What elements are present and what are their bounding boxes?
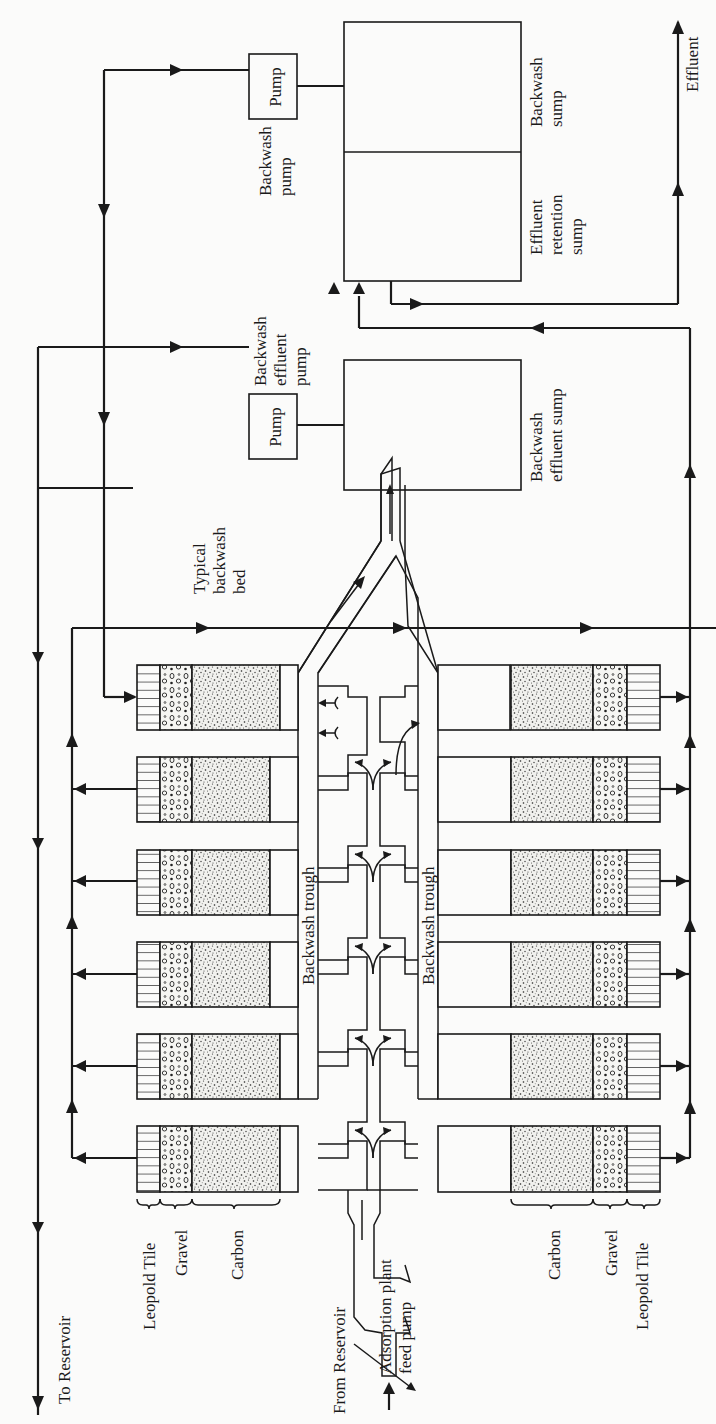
svg-text:pump: pump <box>276 157 295 196</box>
backwash-sump-label: Backwash sump <box>527 57 566 127</box>
svg-text:retention: retention <box>547 194 566 255</box>
svg-text:Gravel: Gravel <box>602 1229 621 1276</box>
feed-pump-label: Adsorption plant feed pump <box>376 1259 415 1374</box>
svg-text:Adsorption plant: Adsorption plant <box>376 1259 395 1374</box>
backwash-trough-left-label: Backwash trough <box>299 866 318 985</box>
pump-label: Pump <box>266 67 285 107</box>
svg-text:effluent sump: effluent sump <box>547 388 566 482</box>
svg-text:pump: pump <box>291 347 310 386</box>
svg-text:Effluent: Effluent <box>527 199 546 255</box>
svg-text:Carbon: Carbon <box>228 1229 247 1280</box>
right-outlet-collector <box>684 328 696 1158</box>
svg-text:Gravel: Gravel <box>172 1229 191 1276</box>
svg-text:Leopold Tile: Leopold Tile <box>633 1243 652 1330</box>
bed-left-1 <box>137 665 298 730</box>
effluent-retention-sump-label: Effluent retention sump <box>527 194 586 255</box>
bed-left-2 <box>137 757 298 822</box>
svg-text:Backwash: Backwash <box>527 412 546 482</box>
left-beds <box>137 665 298 1192</box>
retention-sump-piping <box>328 281 690 334</box>
bed-right-3 <box>438 850 660 915</box>
bed-right-6 <box>438 1126 660 1192</box>
adsorption-plant-diagram: Pump Backwash pump Pump Backwash effluen… <box>0 0 716 1424</box>
feed-manifold <box>318 686 420 1190</box>
bed-right-5 <box>438 1034 660 1099</box>
svg-text:sump: sump <box>547 90 566 127</box>
bed-left-3 <box>137 850 298 915</box>
to-reservoir-label: To Reservoir <box>55 1316 74 1404</box>
effluent-label: Effluent <box>683 36 702 92</box>
backwash-trough-manifold <box>298 458 438 1099</box>
svg-text:backwash: backwash <box>210 526 229 594</box>
right-layer-braces: Carbon Gravel Leopold Tile <box>511 1199 660 1330</box>
backwash-pump-label: Backwash pump <box>256 126 295 196</box>
backwash-effluent-pump-line <box>38 341 249 488</box>
svg-text:Typical: Typical <box>190 543 209 594</box>
bed-left-5 <box>137 1034 298 1099</box>
bed-left-6 <box>137 1126 298 1192</box>
pump-label: Pump <box>266 407 285 447</box>
bed-right-1b <box>438 665 660 730</box>
svg-text:bed: bed <box>230 569 249 594</box>
backwash-effluent-pump-label: Backwash effluent pump <box>251 316 310 386</box>
effluent-line: Effluent <box>672 20 702 304</box>
svg-text:effluent: effluent <box>271 333 290 386</box>
bed-right-2 <box>438 757 660 822</box>
svg-text:Backwash: Backwash <box>256 126 275 196</box>
svg-text:From Reservoir: From Reservoir <box>330 1306 349 1414</box>
svg-text:Leopold Tile: Leopold Tile <box>140 1243 159 1330</box>
backwash-effluent-sump-label: Backwash effluent sump <box>527 388 566 482</box>
left-layer-braces: Leopold Tile Gravel Carbon <box>137 1199 280 1330</box>
svg-text:Carbon: Carbon <box>545 1229 564 1280</box>
svg-text:feed pump: feed pump <box>396 1302 415 1374</box>
backwash-trough-right-label: Backwash trough <box>419 866 438 985</box>
svg-text:sump: sump <box>567 218 586 255</box>
svg-text:Backwash: Backwash <box>251 316 270 386</box>
bed-right-4 <box>438 942 660 1007</box>
bed-left-4 <box>137 942 298 1007</box>
backwash-effluent-sump <box>344 360 521 490</box>
typical-backwash-bed-label: Typical backwash bed <box>190 526 249 594</box>
backwash-supply-line <box>98 64 249 703</box>
right-beds-actual <box>438 665 690 1192</box>
trough-diagonals <box>298 541 438 673</box>
effluent-retention-and-backwash-sump <box>344 22 521 281</box>
svg-text:Backwash: Backwash <box>527 57 546 127</box>
